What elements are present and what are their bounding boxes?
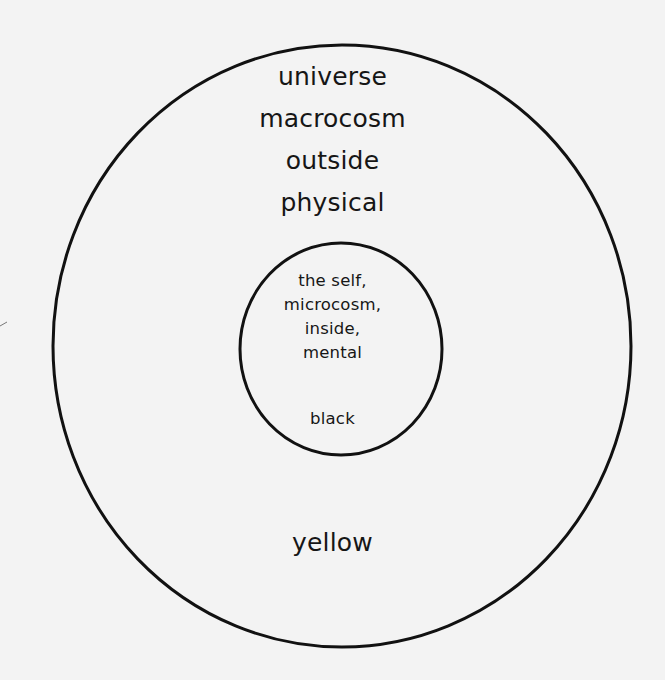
concentric-diagram: universe macrocosm outside physical the … [0,0,665,680]
inner-label-microcosm: microcosm, [0,295,665,315]
outer-label-universe: universe [0,62,665,92]
outer-color-label: yellow [0,528,665,558]
outer-label-macrocosm: macrocosm [0,104,665,134]
diagram-shapes [0,0,665,680]
inner-label-mental: mental [0,343,665,363]
outer-label-outside: outside [0,146,665,176]
inner-color-label: black [0,409,665,429]
inner-label-inside: inside, [0,319,665,339]
outer-label-physical: physical [0,188,665,218]
inner-label-the-self: the self, [0,271,665,291]
